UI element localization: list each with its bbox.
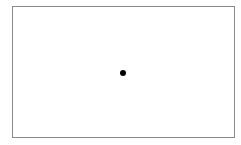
center-point (120, 70, 126, 76)
